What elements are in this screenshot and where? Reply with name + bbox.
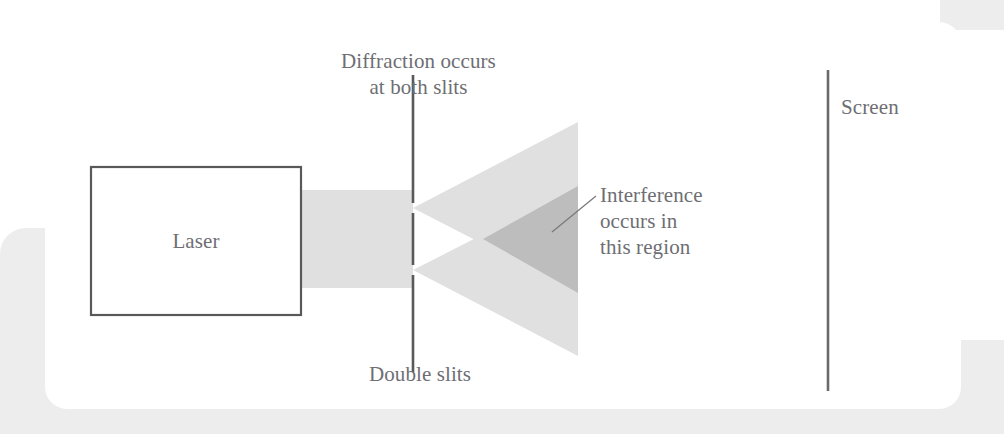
label-diffraction-occurs-at-both-slits: Diffraction occurs at both slits (311, 48, 526, 100)
label-laser: Laser (91, 228, 301, 254)
label-screen: Screen (841, 94, 981, 120)
label-interference-occurs-in-this-region: Interference occurs in this region (600, 182, 800, 260)
label-double-slits: Double slits (330, 361, 510, 387)
incident-beam (297, 190, 413, 288)
diagram-canvas: Diffraction occurs at both slits Double … (0, 0, 1004, 434)
